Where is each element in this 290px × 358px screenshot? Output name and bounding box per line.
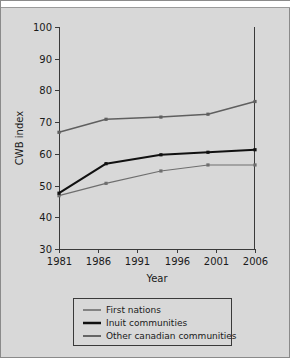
- legend-label-1: Inuit communities: [106, 318, 187, 328]
- y-tick-label-70: 70: [39, 117, 52, 128]
- cwb-index-line-chart: 30405060708090100 1981198619911996200120…: [1, 1, 290, 358]
- data-point: [159, 115, 162, 118]
- x-tick-label-2001: 2001: [204, 256, 229, 267]
- y-tick-label-50: 50: [39, 181, 52, 192]
- data-point: [57, 131, 60, 134]
- data-point: [206, 163, 209, 166]
- x-tick-label-1986: 1986: [86, 256, 111, 267]
- data-point: [104, 118, 107, 121]
- y-tick-label-30: 30: [39, 244, 52, 255]
- y-tick-label-80: 80: [39, 85, 52, 96]
- plot-area-background: [59, 27, 255, 249]
- x-axis-ticks: 198119861991199620012006: [47, 249, 268, 267]
- x-axis-title: Year: [145, 273, 168, 284]
- data-point: [57, 192, 60, 195]
- figure-container: 30405060708090100 1981198619911996200120…: [0, 0, 290, 358]
- data-point: [253, 163, 256, 166]
- data-point: [253, 148, 256, 151]
- x-tick-label-1981: 1981: [47, 256, 72, 267]
- data-point: [159, 169, 162, 172]
- data-point: [206, 113, 209, 116]
- legend-label-2: Other canadian communities: [106, 331, 237, 341]
- data-point: [104, 182, 107, 185]
- data-point: [159, 153, 162, 156]
- y-tick-label-100: 100: [33, 22, 52, 33]
- x-tick-label-1996: 1996: [165, 256, 190, 267]
- y-axis-title: CWB index: [14, 111, 25, 165]
- data-point: [206, 151, 209, 154]
- data-point: [253, 100, 256, 103]
- legend-label-0: First nations: [106, 305, 161, 315]
- x-tick-label-1991: 1991: [125, 256, 150, 267]
- y-tick-label-40: 40: [39, 212, 52, 223]
- y-tick-label-90: 90: [39, 54, 52, 65]
- x-tick-label-2006: 2006: [243, 256, 268, 267]
- y-axis-ticks: 30405060708090100: [33, 22, 59, 255]
- y-tick-label-60: 60: [39, 149, 52, 160]
- data-point: [104, 162, 107, 165]
